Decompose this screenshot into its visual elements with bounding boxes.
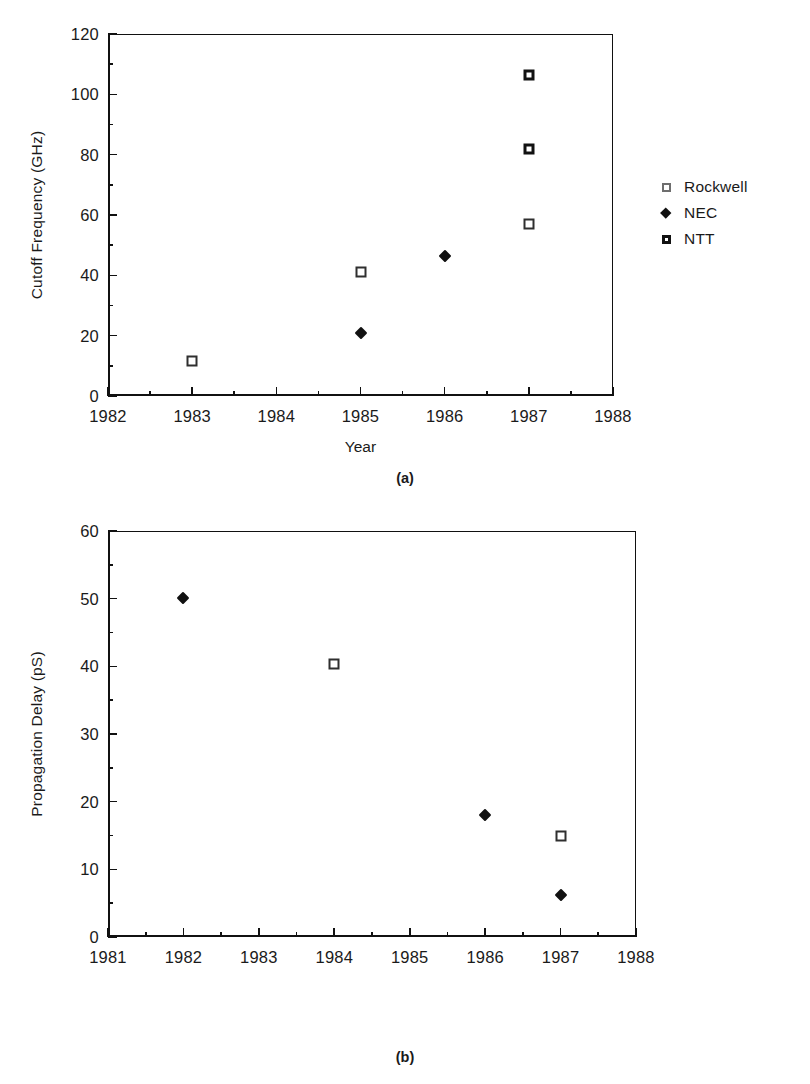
y-axis-tick-label: 30 <box>80 725 99 744</box>
y-axis-tick <box>108 598 117 600</box>
y-axis-minor-tick <box>108 835 113 837</box>
x-axis-minor-tick <box>220 932 222 937</box>
y-axis-minor-tick <box>108 365 113 367</box>
legend-item-nec: NEC <box>662 200 748 226</box>
x-axis-tick-label: 1983 <box>173 407 211 426</box>
figure-panel-a: Cutoff Frequency (GHz) Year 020406080100… <box>0 0 810 500</box>
plot-axes-frame <box>108 34 613 396</box>
x-axis-tick <box>258 928 260 937</box>
x-axis-tick-label: 1984 <box>316 948 354 967</box>
y-axis-title: Cutoff Frequency (GHz) <box>28 131 46 300</box>
y-axis-tick-label: 0 <box>90 387 99 406</box>
x-axis-tick-label: 1986 <box>426 407 464 426</box>
y-axis-tick <box>108 275 117 277</box>
plot-axes-frame <box>108 531 636 937</box>
x-axis-tick-label: 1985 <box>342 407 380 426</box>
data-point-rockwell <box>555 830 566 841</box>
x-axis-tick-label: 1987 <box>542 948 580 967</box>
legend-item-ntt: NTT <box>662 226 748 252</box>
y-axis-minor-tick <box>108 124 113 126</box>
y-axis-tick <box>108 936 117 938</box>
y-axis-tick-label: 50 <box>80 589 99 608</box>
y-axis-tick <box>108 335 117 337</box>
x-axis-tick <box>191 387 193 396</box>
x-axis-tick <box>612 387 614 396</box>
legend-panel-a: RockwellNECNTT <box>662 174 748 252</box>
data-point-rockwell <box>329 658 340 669</box>
x-axis-tick <box>183 928 185 937</box>
x-axis-minor-tick <box>486 391 488 396</box>
x-axis-tick-label: 1985 <box>391 948 429 967</box>
x-axis-tick-label: 1981 <box>89 948 127 967</box>
y-axis-tick-label: 10 <box>80 860 99 879</box>
x-axis-tick-label: 1983 <box>240 948 278 967</box>
y-axis-tick <box>108 154 117 156</box>
data-point-rockwell <box>523 219 534 230</box>
panel-caption-b: (b) <box>396 1049 415 1065</box>
filled-square-glyph <box>662 235 671 244</box>
panel-caption-a: (a) <box>396 470 414 486</box>
y-axis-minor-tick <box>108 699 113 701</box>
x-axis-minor-tick <box>522 932 524 937</box>
legend-item-label: NEC <box>684 204 717 222</box>
filled-diamond-glyph <box>660 208 671 219</box>
x-axis-minor-tick <box>597 932 599 937</box>
scatter-plot-propagation-delay: Propagation Delay (pS) 01020304050601981… <box>108 531 636 937</box>
y-axis-tick <box>108 869 117 871</box>
x-axis-tick <box>560 928 562 937</box>
figure-panel-b: Propagation Delay (pS) 01020304050601981… <box>0 500 810 1084</box>
y-axis-tick-label: 40 <box>80 657 99 676</box>
y-axis-tick <box>108 733 117 735</box>
y-axis-tick <box>108 530 117 532</box>
data-point-rockwell <box>355 267 366 278</box>
legend-item-label: NTT <box>684 230 715 248</box>
open-square-glyph <box>662 183 671 192</box>
y-axis-tick <box>108 33 117 35</box>
y-axis-tick-label: 100 <box>71 85 99 104</box>
x-axis-tick-label: 1987 <box>510 407 548 426</box>
x-axis-tick-label: 1988 <box>594 407 632 426</box>
legend-item-label: Rockwell <box>684 178 748 196</box>
y-axis-tick-label: 0 <box>90 928 99 947</box>
y-axis-tick <box>108 214 117 216</box>
x-axis-tick <box>635 928 637 937</box>
x-axis-tick-label: 1982 <box>165 948 203 967</box>
y-axis-minor-tick <box>108 632 113 634</box>
y-axis-minor-tick <box>108 305 113 307</box>
x-axis-minor-tick <box>149 391 151 396</box>
y-axis-tick-label: 60 <box>80 522 99 541</box>
x-axis-minor-tick <box>145 932 147 937</box>
x-axis-tick <box>528 387 530 396</box>
data-point-rockwell <box>187 356 198 367</box>
x-axis-tick-label: 1982 <box>89 407 127 426</box>
x-axis-minor-tick <box>570 391 572 396</box>
x-axis-minor-tick <box>402 391 404 396</box>
x-axis-tick <box>409 928 411 937</box>
y-axis-tick-label: 80 <box>80 145 99 164</box>
filled-square-icon <box>662 235 684 244</box>
y-axis-tick-label: 20 <box>80 792 99 811</box>
x-axis-minor-tick <box>233 391 235 396</box>
filled-diamond-icon <box>662 209 684 217</box>
x-axis-minor-tick <box>447 932 449 937</box>
x-axis-tick <box>107 928 109 937</box>
x-axis-tick-label: 1988 <box>617 948 655 967</box>
y-axis-minor-tick <box>108 184 113 186</box>
y-axis-tick <box>108 801 117 803</box>
x-axis-tick <box>444 387 446 396</box>
x-axis-title: Year <box>345 438 376 456</box>
x-axis-tick <box>360 387 362 396</box>
y-axis-tick <box>108 94 117 96</box>
data-point-ntt <box>523 143 534 154</box>
x-axis-minor-tick <box>371 932 373 937</box>
y-axis-tick-label: 40 <box>80 266 99 285</box>
x-axis-tick <box>107 387 109 396</box>
scatter-plot-cutoff-frequency: Cutoff Frequency (GHz) Year 020406080100… <box>108 34 613 396</box>
y-axis-minor-tick <box>108 767 113 769</box>
x-axis-tick-label: 1986 <box>466 948 504 967</box>
y-axis-minor-tick <box>108 63 113 65</box>
x-axis-minor-tick <box>296 932 298 937</box>
open-square-icon <box>662 183 684 192</box>
y-axis-tick-label: 60 <box>80 206 99 225</box>
y-axis-title: Propagation Delay (pS) <box>28 651 46 817</box>
